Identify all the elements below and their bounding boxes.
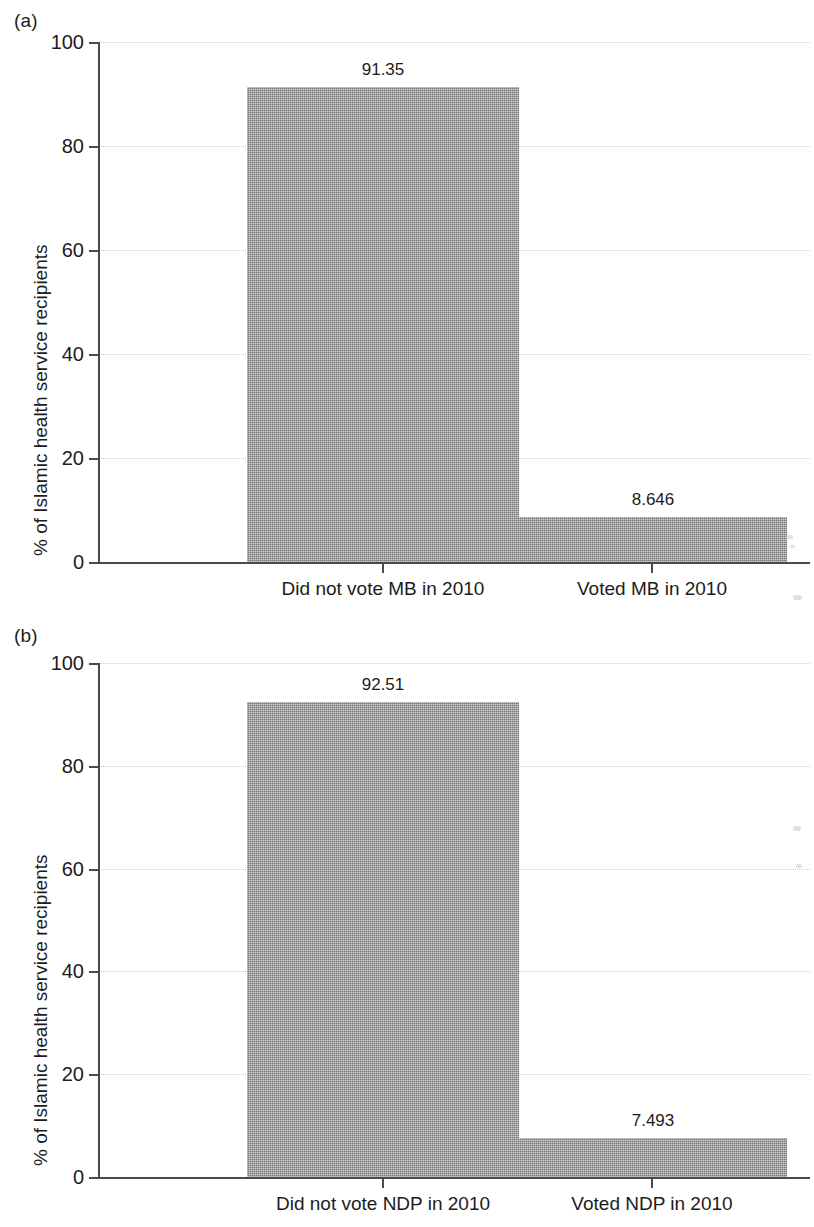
y-tick-mark-20-b [89, 1074, 98, 1076]
scan-speckle [790, 545, 795, 548]
y-tick-label-40-a: 40 [10, 343, 84, 366]
bar-did-not-vote-ndp [247, 702, 519, 1177]
x-tick-label-cat1-b: Did not vote NDP in 2010 [226, 1193, 540, 1215]
x-tick-label-cat2-b: Voted NDP in 2010 [517, 1193, 787, 1215]
bar-voted-mb [519, 517, 787, 562]
y-tick-mark-80-a [89, 146, 98, 148]
y-tick-mark-20-a [89, 458, 98, 460]
y-tick-label-80-b: 80 [10, 755, 84, 778]
y-tick-mark-60-b [89, 869, 98, 871]
bar-value-voted-mb: 8.646 [583, 490, 723, 510]
y-tick-mark-60-a [89, 250, 98, 252]
y-tick-mark-80-b [89, 766, 98, 768]
y-tick-label-100-b: 100 [10, 652, 84, 675]
bar-value-did-not-vote-mb: 91.35 [313, 60, 453, 80]
y-tick-mark-100-a [89, 42, 98, 44]
y-tick-label-20-b: 20 [10, 1063, 84, 1086]
x-tick-mark-cat1-a [382, 563, 384, 573]
bar-voted-ndp [519, 1138, 787, 1177]
gridline-100-a [98, 42, 810, 44]
scan-speckle [793, 826, 801, 831]
x-tick-label-cat2-a: Voted MB in 2010 [521, 578, 783, 600]
y-tick-mark-0-b [89, 1177, 98, 1179]
chart-panel-a: (a) % of Islamic health service recipien… [0, 0, 814, 614]
x-tick-mark-cat1-b [382, 1178, 384, 1188]
y-tick-label-0-a: 0 [10, 551, 84, 574]
y-tick-label-20-a: 20 [10, 447, 84, 470]
panel-label-a: (a) [14, 10, 38, 32]
y-tick-mark-40-a [89, 354, 98, 356]
y-axis-line-b [98, 663, 100, 1179]
y-tick-mark-100-b [89, 663, 98, 665]
y-tick-label-40-b: 40 [10, 960, 84, 983]
y-tick-label-60-a: 60 [10, 239, 84, 262]
x-axis-line-a [98, 562, 810, 564]
x-tick-label-cat1-a: Did not vote MB in 2010 [232, 578, 534, 600]
y-axis-title-b: % of Islamic health service recipients [30, 854, 52, 1166]
bar-value-voted-ndp: 7.493 [583, 1111, 723, 1131]
x-axis-line-b [98, 1177, 810, 1179]
y-tick-label-80-a: 80 [10, 135, 84, 158]
y-tick-label-100-a: 100 [10, 31, 84, 54]
y-tick-mark-0-a [89, 562, 98, 564]
scan-speckle [793, 595, 802, 600]
y-axis-title-a: % of Islamic health service recipients [30, 244, 52, 556]
chart-panel-b: (b) % of Islamic health service recipien… [0, 614, 814, 1227]
panel-label-b: (b) [14, 625, 38, 647]
y-tick-label-0-b: 0 [10, 1166, 84, 1189]
x-tick-mark-cat2-b [651, 1178, 653, 1188]
y-tick-mark-40-b [89, 971, 98, 973]
y-tick-label-60-b: 60 [10, 858, 84, 881]
scan-speckle [786, 535, 793, 539]
gridline-100-b [98, 663, 810, 665]
y-axis-line-a [98, 42, 100, 564]
x-tick-mark-cat2-a [651, 563, 653, 573]
bar-value-did-not-vote-ndp: 92.51 [313, 675, 453, 695]
scan-speckle [796, 864, 802, 868]
bar-did-not-vote-mb [247, 87, 519, 562]
